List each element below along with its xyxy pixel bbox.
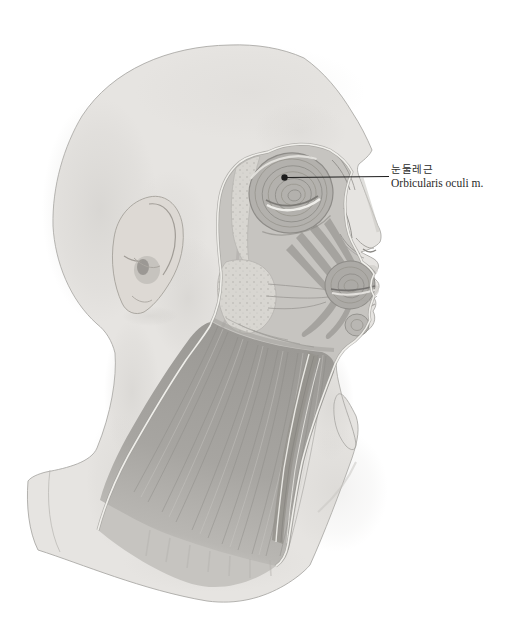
label-korean: 눈둘레근 [391, 163, 483, 176]
mentalis-muscle [345, 314, 369, 336]
head-anatomy-illustration [0, 0, 510, 636]
label-latin: Orbicularis oculi m. [391, 176, 483, 190]
label-dot [281, 174, 287, 180]
annotation-label: 눈둘레근 Orbicularis oculi m. [391, 163, 483, 190]
figure-canvas: 눈둘레근 Orbicularis oculi m. [0, 0, 510, 636]
